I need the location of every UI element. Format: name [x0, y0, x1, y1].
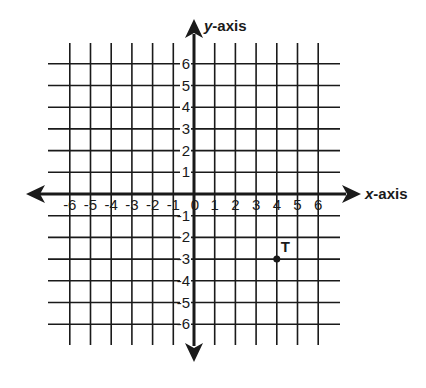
x-tick-label: 4 — [273, 196, 281, 213]
y-tick-label: 1 — [182, 163, 190, 180]
x-tick-label: 1 — [211, 196, 219, 213]
axes — [26, 19, 361, 362]
x-tick-label: 5 — [293, 196, 301, 213]
y-tick-label: -2 — [177, 228, 190, 245]
y-tick-label: -6 — [177, 315, 190, 332]
x-tick-label: 0 — [191, 196, 199, 213]
y-tick-label: 5 — [182, 77, 190, 94]
y-axis-label: y-axis — [203, 17, 247, 34]
y-tick-label: -1 — [177, 207, 190, 224]
x-tick-label: 2 — [231, 196, 239, 213]
coordinate-plane: -6-5-4-3-2-10123456-6-5-4-3-2-1123456 T … — [0, 0, 426, 388]
y-tick-label: 2 — [182, 142, 190, 159]
y-tick-label: -3 — [177, 250, 190, 267]
x-axis-label: x-axis — [364, 185, 408, 202]
point-marker-icon — [273, 256, 280, 263]
x-tick-label: -3 — [125, 196, 138, 213]
x-tick-label: 3 — [252, 196, 260, 213]
x-tick-label: -5 — [84, 196, 97, 213]
y-tick-label: 3 — [182, 120, 190, 137]
x-tick-label: -4 — [105, 196, 118, 213]
y-tick-label: 4 — [182, 98, 190, 115]
x-tick-label: -2 — [146, 196, 159, 213]
y-tick-label: -4 — [177, 272, 190, 289]
x-tick-label: 6 — [314, 196, 322, 213]
y-tick-label: -5 — [177, 294, 190, 311]
y-tick-label: 6 — [182, 55, 190, 72]
point-label: T — [281, 238, 290, 255]
x-tick-label: -6 — [63, 196, 76, 213]
axis-labels: x-axisy-axis — [203, 17, 408, 202]
